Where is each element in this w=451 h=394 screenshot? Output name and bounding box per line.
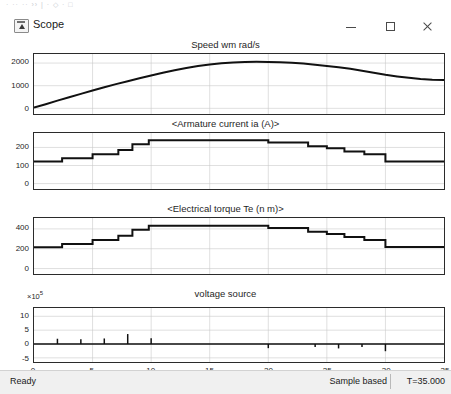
y-tick-label: 0 <box>3 264 29 273</box>
status-divider <box>390 374 391 389</box>
status-time-label: T=35.000 <box>407 376 445 386</box>
maximize-button[interactable] <box>378 19 404 35</box>
y-tick-label: 400 <box>3 223 29 232</box>
chart-axes-1[interactable] <box>33 53 445 115</box>
y-tick-label: 100 <box>3 161 29 170</box>
status-mode-label: Sample based <box>329 376 387 386</box>
chart-title-3: <Electrical torque Te (n m)> <box>0 203 451 214</box>
scope-icon <box>14 19 29 33</box>
chart-exponent-4: ×105 <box>27 290 43 301</box>
chart-axes-4[interactable] <box>33 307 445 363</box>
chart-title-1: Speed wm rad/s <box>0 39 451 50</box>
y-tick-label: 200 <box>3 142 29 151</box>
title-bar: Scope <box>0 13 451 39</box>
toolbar-ghost-text: · ·· ·· ›› | · ◇ · □ <box>6 1 74 9</box>
chart-axes-3[interactable] <box>33 217 445 275</box>
y-tick-label: 5 <box>3 325 29 334</box>
status-ready-label: Ready <box>10 376 36 386</box>
y-tick-label: 0 <box>3 104 29 113</box>
y-tick-label: 1000 <box>3 81 29 90</box>
window-title: Scope <box>33 18 64 30</box>
y-tick-label: -5 <box>3 354 29 363</box>
chart-title-2: <Armature current ia (A)> <box>0 118 451 129</box>
status-bar: Ready Sample based T=35.000 <box>0 370 451 394</box>
y-tick-label: 10 <box>3 311 29 320</box>
y-tick-label: 200 <box>3 244 29 253</box>
chart-axes-2[interactable] <box>33 132 445 190</box>
cropped-toolbar-strip: · ·· ·· ›› | · ◇ · □ <box>0 0 451 13</box>
chart-title-4: voltage source <box>0 288 451 299</box>
y-tick-label: 2000 <box>3 57 29 66</box>
y-tick-label: 0 <box>3 339 29 348</box>
y-tick-label: 0 <box>3 179 29 188</box>
plot-stack: Speed wm rad/s010002000<Armature current… <box>0 39 451 370</box>
minimize-button[interactable] <box>338 19 364 35</box>
close-button[interactable] <box>414 19 440 35</box>
